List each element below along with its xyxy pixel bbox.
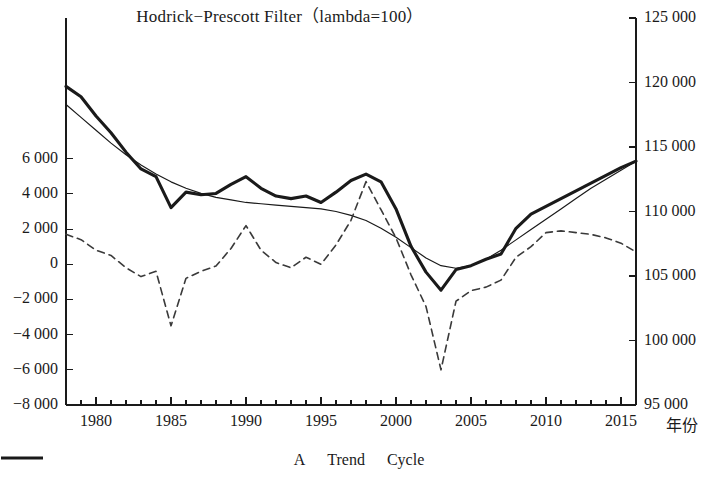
x-axis-title: 年份 xyxy=(666,412,698,436)
y-axis-right-tick-label: 115 000 xyxy=(644,137,695,155)
x-tick-label: 2015 xyxy=(586,412,656,430)
y-axis-left-tick-label: 4 000 xyxy=(0,184,58,202)
x-tick-label: 2005 xyxy=(436,412,506,430)
y-axis-right-tick-label: 95 000 xyxy=(644,395,688,413)
y-axis-left-tick-label: 6 000 xyxy=(0,149,58,167)
y-axis-left-tick-label: −8 000 xyxy=(0,395,58,413)
legend-swatch-dashed xyxy=(0,452,44,464)
series-line-trend xyxy=(66,104,636,268)
y-axis-left-tick-label: −4 000 xyxy=(0,325,58,343)
legend-label: A xyxy=(294,452,306,468)
y-axis-right-tick-label: 100 000 xyxy=(644,331,696,349)
data-series xyxy=(66,86,636,369)
series-line-a xyxy=(66,86,636,290)
legend-label: Trend xyxy=(327,452,365,468)
hp-filter-chart: Hodrick−Prescott Filter（lambda=100） 1980… xyxy=(0,0,718,479)
series-line-cycle xyxy=(66,182,636,370)
y-axis-left-tick-label: −6 000 xyxy=(0,360,58,378)
plot-area xyxy=(0,0,718,479)
y-axis-right-tick-label: 125 000 xyxy=(644,8,696,26)
x-tick-label: 2000 xyxy=(361,412,431,430)
y-axis-right-tick-label: 120 000 xyxy=(644,73,696,91)
y-axis-left-tick-label: 0 xyxy=(0,254,58,272)
legend-item-cycle[interactable]: Cycle xyxy=(387,452,424,468)
x-tick-label: 2010 xyxy=(511,412,581,430)
y-axis-left-tick-label: 2 000 xyxy=(0,219,58,237)
axes xyxy=(66,18,636,405)
chart-legend: ATrendCycle xyxy=(0,452,718,468)
y-axis-left-tick-label: −2 000 xyxy=(0,289,58,307)
y-axis-right-tick-label: 105 000 xyxy=(644,266,696,284)
legend-item-a[interactable]: A xyxy=(294,452,306,468)
legend-label: Cycle xyxy=(387,452,424,468)
x-tick-label: 1985 xyxy=(136,412,206,430)
x-tick-label: 1980 xyxy=(61,412,131,430)
y-axis-right-tick-label: 110 000 xyxy=(644,202,695,220)
x-tick-label: 1990 xyxy=(211,412,281,430)
legend-item-trend[interactable]: Trend xyxy=(327,452,365,468)
x-tick-label: 1995 xyxy=(286,412,356,430)
